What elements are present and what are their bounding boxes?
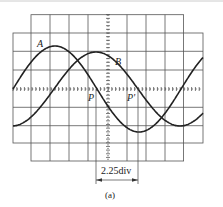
point-p-label: P — [88, 92, 94, 103]
arrowhead-left-icon — [96, 178, 102, 181]
waveform-b-label: B — [115, 56, 121, 67]
figure-caption: (a) — [105, 190, 115, 200]
dimension-label: 2.25div — [101, 165, 131, 176]
axis-minor-ticks — [13, 15, 199, 158]
point-p-prime-label: P' — [127, 92, 135, 103]
waveform-a-label: A — [37, 38, 43, 49]
arrowhead-right-icon — [132, 178, 138, 181]
